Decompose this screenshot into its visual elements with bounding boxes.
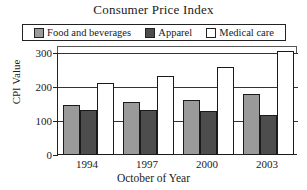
y-tick-label: 200 [16,81,52,93]
bar-group-1994 [58,53,118,155]
legend-label-apparel: Apparel [158,27,192,38]
legend-swatch-apparel [145,28,155,38]
bar [123,102,140,155]
chart-legend: Food and beverages Apparel Medical care [22,24,286,41]
x-tick-label: 1997 [117,158,177,172]
bar-group-1997 [118,53,178,155]
x-tick-label: 2000 [177,158,237,172]
bar-groups [58,53,298,155]
bar [243,94,260,155]
plot-area [57,53,297,155]
bar [80,110,97,155]
legend-item-food-and-beverages: Food and beverages [34,27,131,38]
chart-figure: Consumer Price Index Food and beverages … [0,0,307,190]
bar [277,51,294,155]
y-tick-label: 0 [16,149,52,161]
bar [200,111,217,155]
bar-group-2003 [238,53,298,155]
bar [260,115,277,155]
bar [97,83,114,155]
y-axis-tick [53,155,58,156]
legend-label-food-and-beverages: Food and beverages [47,27,131,38]
legend-swatch-medical-care [206,28,216,38]
y-tick-label: 300 [16,47,52,59]
legend-item-medical-care: Medical care [206,27,274,38]
x-axis-tick-labels: 1994199720002003 [57,158,297,172]
bar-group-2000 [178,53,238,155]
legend-label-medical-care: Medical care [219,27,274,38]
legend-item-apparel: Apparel [145,27,192,38]
bar [157,76,174,155]
bar [140,110,157,155]
x-tick-label: 1994 [57,158,117,172]
legend-swatch-food-and-beverages [34,28,44,38]
x-axis-title: October of Year [0,172,307,184]
x-tick-label: 2003 [237,158,297,172]
y-axis-tick-labels: 3002001000 [16,53,52,155]
plot-frame-top [57,46,297,53]
y-tick-label: 100 [16,115,52,127]
bar [63,105,80,155]
chart-title: Consumer Price Index [0,2,307,18]
bar [183,100,200,155]
bar [217,67,234,155]
